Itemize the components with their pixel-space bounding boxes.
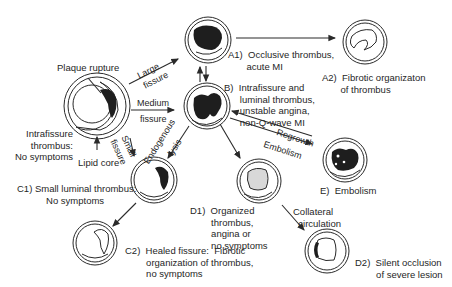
c2-vessel-icon	[73, 221, 117, 265]
medium-fissure-label-1: Medium	[137, 98, 169, 108]
d2-label: D2) Silent occlusion of severe lesion	[355, 257, 443, 280]
c1-vessel-icon	[131, 157, 177, 203]
d1-label: D1) Organized thrombus, angina or no sym…	[190, 205, 268, 251]
medium-fissure-label-2: fissure	[140, 114, 167, 124]
plaque-rupture-label: Plaque rupture	[57, 62, 119, 74]
d2-vessel-icon	[305, 229, 349, 273]
e-vessel-icon	[323, 138, 367, 182]
a2-label: A2) Fibrotic organizaton of thrombus	[322, 72, 426, 95]
collateral-circulation-label: Collateral circulation	[293, 206, 341, 229]
b-label: B) Intrafissure and luminal thrombus, un…	[224, 82, 315, 128]
d1-vessel-icon	[237, 159, 281, 203]
a2-vessel-icon	[343, 20, 387, 64]
intrafissure-thrombus-label: Intrafissure thrombus: No symptoms	[15, 128, 73, 163]
origin-vessel-icon	[64, 73, 130, 139]
a1-label: A1) Occlusive thrombus, acute MI	[228, 49, 334, 72]
e-label: E) Embolism	[320, 185, 376, 197]
lipid-core-label: Lipid core	[78, 157, 119, 169]
diagram-canvas: Plaque rupture Intrafissure thrombus: No…	[0, 0, 452, 287]
a1-vessel-icon	[185, 17, 231, 63]
c1-label: C1) Small luminal thrombus: No symptoms	[17, 183, 136, 206]
